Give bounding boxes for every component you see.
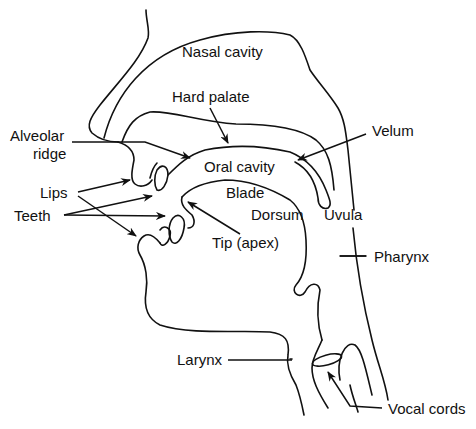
lower-tooth-1: [169, 216, 184, 244]
tongue: [182, 180, 322, 340]
teeth-pointer-lower: [64, 215, 165, 216]
label-oral-cavity: Oral cavity: [204, 158, 275, 175]
lower-lip-chin: [138, 235, 304, 415]
label-teeth: Teeth: [14, 207, 51, 224]
arytenoid: [339, 344, 372, 395]
vocal-tract-drawing: [0, 0, 476, 429]
label-nasal-cavity: Nasal cavity: [182, 43, 263, 60]
label-tip-apex: Tip (apex): [212, 234, 279, 251]
lower-tooth-2: [160, 227, 170, 245]
oral-roof: [118, 142, 152, 186]
nose-outline: [89, 10, 148, 142]
tip-pointer: [188, 202, 240, 234]
hard-palate-upper: [122, 112, 334, 190]
label-vocal-cords: Vocal cords: [388, 400, 466, 417]
label-lips: Lips: [40, 184, 68, 201]
label-alveolar-ridge-line1: Alveolar: [10, 127, 64, 144]
label-uvula: Uvula: [324, 206, 362, 223]
larynx-front: [312, 340, 328, 408]
teeth-pointer-upper: [64, 196, 152, 215]
label-velum: Velum: [372, 122, 414, 139]
label-hard-palate: Hard palate: [172, 88, 250, 105]
label-dorsum: Dorsum: [251, 206, 304, 223]
label-pharynx: Pharynx: [374, 248, 429, 265]
lips-pointer: [78, 180, 130, 192]
label-alveolar-ridge-line2: ridge: [33, 145, 66, 162]
hard-palate-pointer: [210, 108, 228, 143]
label-blade: Blade: [226, 184, 264, 201]
velum-pointer: [298, 134, 366, 160]
arytenoid-inner: [350, 385, 358, 412]
label-larynx: Larynx: [177, 351, 222, 368]
tongue-tip: [182, 197, 194, 228]
vocal-tract-diagram: Nasal cavity Hard palate Alveolar ridge …: [0, 0, 476, 429]
upper-tooth: [155, 166, 168, 190]
